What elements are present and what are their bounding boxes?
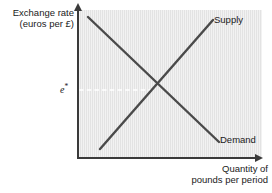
x-axis-line — [77, 157, 257, 159]
supply-demand-chart: Exchange rate (euros per £) Quantity of … — [0, 0, 272, 193]
y-axis-label-line2: (euros per £) — [0, 18, 74, 29]
y-axis-line — [77, 10, 79, 159]
y-axis-label-line1: Exchange rate — [0, 7, 74, 18]
x-axis-label-line2: pounds per period — [150, 174, 268, 185]
x-axis-label: Quantity of pounds per period — [150, 163, 268, 185]
demand-curve-label: Demand — [220, 134, 256, 145]
y-axis-label: Exchange rate (euros per £) — [0, 7, 74, 29]
supply-curve-label: Supply — [214, 14, 243, 25]
x-axis-arrowhead-icon — [255, 154, 263, 162]
equilibrium-rate-star: * — [64, 82, 68, 91]
x-axis-label-line1: Quantity of — [150, 163, 268, 174]
equilibrium-rate-label: e* — [60, 82, 68, 95]
y-axis-arrowhead-icon — [74, 3, 82, 11]
